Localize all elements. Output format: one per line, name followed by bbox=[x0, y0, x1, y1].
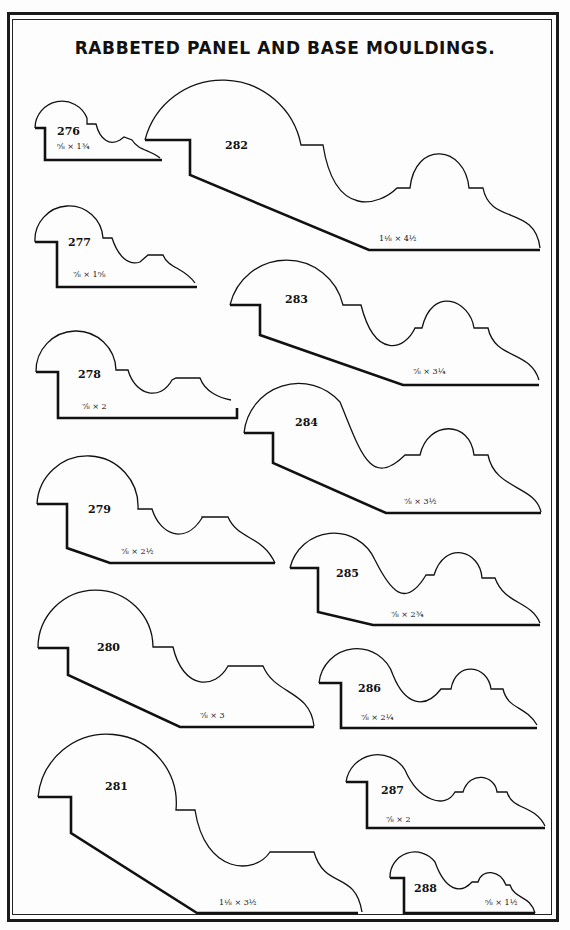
moulding-size: ⅝ × 1½ bbox=[485, 898, 517, 907]
moulding-number: 277 bbox=[68, 236, 91, 249]
profile-283 bbox=[230, 260, 539, 385]
moulding-size: 1⅛ × 4½ bbox=[379, 234, 416, 243]
moulding-size: ⅞ × 2¼ bbox=[361, 713, 393, 722]
profile-286 bbox=[319, 649, 537, 728]
moulding-number: 282 bbox=[225, 139, 248, 152]
profile-282 bbox=[145, 80, 540, 250]
profile-281 bbox=[38, 734, 362, 913]
moulding-profiles bbox=[0, 0, 570, 930]
moulding-size: ⅞ × 2½ bbox=[121, 547, 153, 556]
moulding-number: 283 bbox=[285, 293, 308, 306]
profile-278 bbox=[36, 331, 237, 418]
moulding-size: ⅞ × 2 bbox=[82, 402, 107, 411]
profile-279 bbox=[37, 456, 275, 563]
moulding-size: 1⅛ × 3½ bbox=[219, 898, 256, 907]
moulding-number: 287 bbox=[381, 784, 404, 797]
moulding-number: 278 bbox=[78, 368, 101, 381]
moulding-size: ⅞ × 2¾ bbox=[391, 610, 423, 619]
profile-280 bbox=[38, 590, 314, 727]
moulding-number: 285 bbox=[336, 567, 359, 580]
profile-287 bbox=[346, 755, 545, 828]
moulding-size: ⅞ × 3 bbox=[200, 711, 225, 720]
moulding-size: ⅞ × 2 bbox=[386, 815, 411, 824]
moulding-size: ⅞ × 3½ bbox=[404, 497, 436, 506]
moulding-size: ⅞ × 3¼ bbox=[413, 367, 445, 376]
moulding-number: 281 bbox=[105, 780, 128, 793]
profile-284 bbox=[244, 383, 541, 513]
moulding-number: 280 bbox=[97, 641, 120, 654]
moulding-size: ⅞ × 1⅝ bbox=[73, 270, 105, 279]
moulding-number: 276 bbox=[57, 125, 80, 138]
profile-276 bbox=[35, 101, 162, 160]
moulding-number: 286 bbox=[358, 682, 381, 695]
moulding-number: 279 bbox=[88, 503, 111, 516]
profile-277 bbox=[35, 206, 197, 287]
moulding-number: 284 bbox=[295, 416, 318, 429]
moulding-number: 288 bbox=[414, 882, 437, 895]
moulding-size: ⅝ × 1¾ bbox=[57, 142, 89, 151]
